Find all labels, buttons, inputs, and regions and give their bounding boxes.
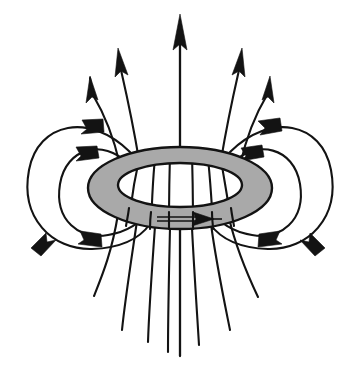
- figure-root: Magnetic field of a circular current loo…: [0, 0, 357, 375]
- magnetic-field-diagram: Magnetic field of a circular current loo…: [0, 0, 357, 375]
- front-cross-2: [150, 212, 151, 229]
- arrowhead-left-inner-top: [76, 146, 99, 161]
- front-cross-5: [212, 212, 213, 229]
